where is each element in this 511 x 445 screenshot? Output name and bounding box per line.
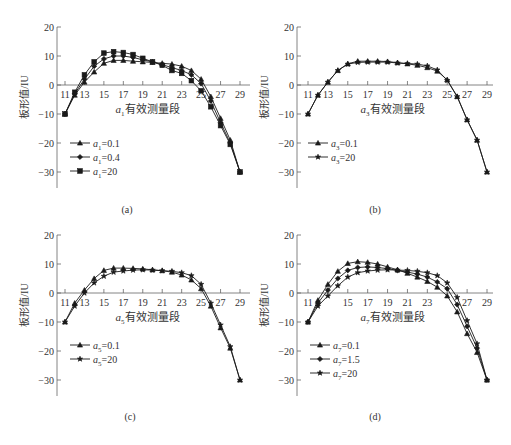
x-axis-label: a5有效测量段 — [116, 310, 180, 326]
y-tick-label: −30 — [278, 167, 294, 178]
square-marker-icon — [179, 71, 184, 76]
square-marker-icon — [208, 104, 213, 109]
x-tick-label: 21 — [402, 89, 412, 100]
chart-panel-b: 20100−10−20−3011131517192123252729a3有效测量… — [258, 22, 493, 189]
x-tick-label: 29 — [482, 297, 492, 308]
triangle-marker-icon — [465, 331, 470, 336]
x-tick-label: 19 — [138, 89, 148, 100]
star-marker-icon — [355, 270, 360, 275]
x-tick-label: 11 — [60, 297, 70, 308]
x-tick-label: 13 — [79, 89, 89, 100]
series-line — [65, 270, 240, 380]
y-tick-label: 20 — [284, 22, 294, 33]
y-tick-label: 20 — [44, 22, 54, 33]
square-marker-icon — [131, 52, 136, 57]
legend-label: a7=20 — [333, 368, 357, 382]
y-tick-label: 10 — [44, 51, 54, 62]
x-tick-label: 21 — [157, 89, 167, 100]
star-marker-icon — [355, 60, 360, 65]
square-marker-icon — [160, 63, 165, 68]
caption-b: (b) — [355, 204, 395, 215]
legend-label: a1=0.4 — [93, 152, 120, 166]
x-tick-label: 29 — [482, 89, 492, 100]
y-tick-label: −20 — [278, 346, 294, 357]
star-marker-icon — [365, 59, 370, 64]
star-marker-icon — [77, 356, 82, 361]
y-tick-label: 0 — [49, 288, 54, 299]
y-axis-label: 板形值/IU — [18, 75, 30, 119]
x-tick-label: 19 — [383, 297, 393, 308]
caption-a: (a) — [107, 204, 147, 215]
x-tick-label: 17 — [118, 297, 128, 308]
x-axis-label: a1有效测量段 — [116, 102, 180, 118]
square-marker-icon — [82, 73, 87, 78]
legend-label: a5=20 — [93, 354, 117, 368]
x-tick-label: 15 — [99, 89, 109, 100]
square-marker-icon — [170, 68, 175, 73]
x-tick-label: 17 — [363, 297, 373, 308]
square-marker-icon — [228, 142, 233, 147]
y-tick-label: −30 — [38, 375, 54, 386]
square-marker-icon — [63, 112, 68, 117]
x-tick-label: 27 — [462, 297, 472, 308]
legend: a5=0.1a5=20 — [70, 340, 120, 368]
x-axis-label: a3有效测量段 — [361, 102, 425, 118]
x-tick-label: 27 — [216, 297, 226, 308]
y-tick-label: 10 — [284, 51, 294, 62]
legend: a3=0.1a3=20 — [308, 138, 358, 166]
x-tick-label: 11 — [303, 297, 313, 308]
square-marker-icon — [199, 88, 204, 93]
y-tick-label: 0 — [49, 80, 54, 91]
x-tick-label: 25 — [442, 89, 452, 100]
star-marker-icon — [365, 268, 370, 273]
y-tick-label: −10 — [38, 109, 54, 120]
diamond-marker-icon — [445, 286, 450, 291]
y-tick-label: 0 — [289, 80, 294, 91]
chart-panel-a: 20100−10−20−3011131517192123252729a1有效测量… — [18, 22, 250, 189]
x-tick-label: 11 — [60, 89, 70, 100]
y-tick-label: 10 — [284, 259, 294, 270]
square-marker-icon — [111, 49, 116, 54]
x-tick-label: 27 — [216, 89, 226, 100]
x-tick-label: 13 — [79, 297, 89, 308]
star-marker-icon — [317, 370, 322, 375]
x-tick-label: 19 — [138, 297, 148, 308]
diamond-marker-icon — [77, 154, 82, 159]
square-marker-icon — [121, 50, 126, 55]
legend-label: a5=0.1 — [93, 340, 120, 354]
legend-label: a3=0.1 — [331, 138, 358, 152]
y-tick-label: 0 — [289, 288, 294, 299]
figure-2x2-line-charts: 20100−10−20−3011131517192123252729a1有效测量… — [0, 0, 511, 445]
series-line — [65, 268, 240, 380]
square-marker-icon — [238, 170, 243, 175]
star-marker-icon — [375, 59, 380, 64]
star-marker-icon — [445, 280, 450, 285]
square-marker-icon — [92, 59, 97, 64]
x-tick-label: 19 — [383, 89, 393, 100]
diamond-marker-icon — [455, 302, 460, 307]
triangle-marker-icon — [435, 285, 440, 290]
x-tick-label: 13 — [323, 89, 333, 100]
y-tick-label: −30 — [278, 375, 294, 386]
chart-panel-c: 20100−10−20−3011131517192123252729a5有效测量… — [18, 230, 250, 397]
x-tick-label: 29 — [235, 297, 245, 308]
x-tick-label: 21 — [402, 297, 412, 308]
legend-label: a1=20 — [93, 166, 117, 180]
caption-d: (d) — [355, 411, 395, 422]
square-marker-icon — [150, 59, 155, 64]
caption-c: (c) — [110, 411, 150, 422]
diamond-marker-icon — [317, 356, 322, 361]
x-tick-label: 17 — [363, 89, 373, 100]
star-marker-icon — [140, 267, 145, 272]
x-tick-label: 23 — [422, 297, 432, 308]
y-tick-label: −20 — [38, 346, 54, 357]
x-axis-label: a7有效测量段 — [361, 310, 425, 326]
square-marker-icon — [140, 56, 145, 61]
x-tick-label: 17 — [118, 89, 128, 100]
x-tick-label: 21 — [157, 297, 167, 308]
legend-label: a7=1.5 — [333, 354, 360, 368]
x-tick-label: 11 — [303, 89, 313, 100]
chart-panel-d: 20100−10−20−301115171921232729a7有效测量段板形值… — [258, 230, 493, 397]
x-tick-label: 23 — [422, 89, 432, 100]
y-tick-label: 20 — [284, 230, 294, 241]
